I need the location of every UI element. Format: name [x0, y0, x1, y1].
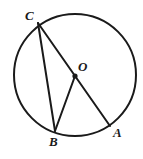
point-label-c: C — [25, 9, 34, 22]
circle-geometry-figure: C O B A — [0, 0, 143, 159]
point-label-o: O — [78, 60, 87, 73]
center-point-dot — [72, 73, 77, 78]
point-label-a: A — [113, 126, 122, 139]
point-label-b: B — [49, 135, 58, 148]
segment-o-b — [55, 76, 75, 131]
segment-c-b — [38, 23, 55, 131]
